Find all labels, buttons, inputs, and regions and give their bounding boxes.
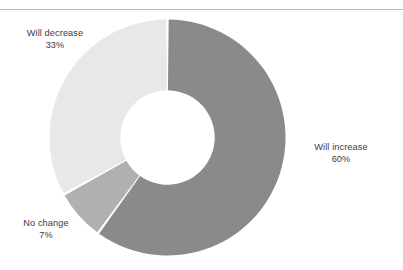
slice-label-will-increase-percent: 60%: [299, 154, 383, 166]
slice-label-will-increase-name: Will increase: [314, 142, 367, 152]
donut-chart-figure: Will decrease 33% Will increase 60% No c…: [0, 0, 403, 270]
slice-label-will-decrease-percent: 33%: [14, 40, 96, 52]
donut-slice-group: [49, 20, 285, 256]
slice-label-no-change-name: No change: [23, 218, 68, 228]
slice-label-no-change-percent: 7%: [12, 230, 80, 242]
slice-label-will-decrease: Will decrease 33%: [14, 28, 96, 51]
slice-label-will-increase: Will increase 60%: [299, 142, 383, 165]
slice-label-no-change: No change 7%: [12, 218, 80, 241]
slice-label-will-decrease-name: Will decrease: [27, 28, 83, 38]
